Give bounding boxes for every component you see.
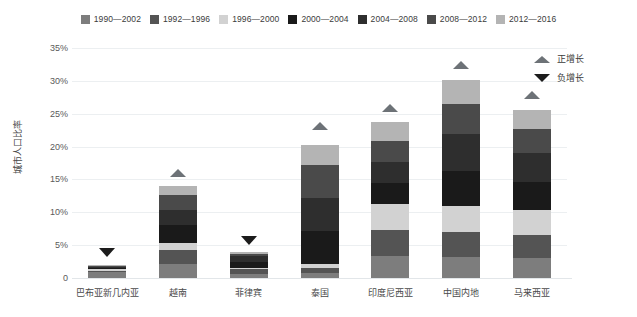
- stacked-bar[interactable]: [513, 110, 551, 278]
- bar-segment[interactable]: [513, 235, 551, 259]
- bar-segment[interactable]: [301, 145, 339, 165]
- plot-area: [72, 48, 567, 278]
- stacked-bar[interactable]: [301, 145, 339, 278]
- bar-segment[interactable]: [513, 210, 551, 235]
- bar-group[interactable]: [442, 48, 480, 278]
- bar-segment[interactable]: [159, 210, 197, 226]
- legend-item-label: 2000—2004: [301, 14, 348, 24]
- legend-item[interactable]: 1992—1996: [150, 14, 210, 24]
- bar-segment[interactable]: [513, 153, 551, 182]
- triangle-up-icon: [534, 54, 550, 64]
- growth-marker-legend: 正增长 负增长: [534, 52, 584, 84]
- chart-root: 1990—20021992—19961996—20002000—20042004…: [0, 0, 637, 317]
- bar-segment[interactable]: [159, 225, 197, 242]
- bar-segment[interactable]: [371, 230, 409, 256]
- legend-swatch-icon: [358, 15, 367, 24]
- bar-segment[interactable]: [442, 232, 480, 257]
- y-axis-tick-label: 0: [28, 273, 68, 283]
- legend-item-label: 2012—2016: [509, 14, 556, 24]
- bar-segment[interactable]: [442, 104, 480, 134]
- legend-swatch-icon: [81, 15, 90, 24]
- bar-group[interactable]: [371, 48, 409, 278]
- legend-item-label: 1990—2002: [94, 14, 141, 24]
- bar-group[interactable]: [88, 48, 126, 278]
- bar-segment[interactable]: [371, 256, 409, 278]
- legend-swatch-icon: [496, 15, 505, 24]
- bar-segment[interactable]: [371, 204, 409, 230]
- legend-swatch-icon: [150, 15, 159, 24]
- bar-segment[interactable]: [159, 243, 197, 251]
- bar-segment[interactable]: [371, 162, 409, 184]
- legend-item-label: 2004—2008: [371, 14, 418, 24]
- bar-segment[interactable]: [301, 165, 339, 198]
- x-axis-tick-label: 马来西亚: [477, 286, 587, 299]
- triangle-down-icon: [534, 73, 550, 83]
- y-axis-tick-label: 35%: [28, 43, 68, 53]
- y-axis-tick-label: 20%: [28, 142, 68, 152]
- y-axis-tick-label: 30%: [28, 76, 68, 86]
- bar-group[interactable]: [230, 48, 268, 278]
- legend-row-positive-growth: 正增长: [534, 52, 584, 65]
- negative-growth-marker-icon: [241, 236, 257, 245]
- positive-growth-marker-icon: [312, 122, 328, 130]
- bar-segment[interactable]: [442, 134, 480, 171]
- y-axis-ticks: 05%10%15%20%25%30%35%: [22, 48, 68, 279]
- legend-label-positive-growth: 正增长: [557, 52, 584, 65]
- bar-segment[interactable]: [159, 250, 197, 263]
- legend-swatch-icon: [219, 15, 228, 24]
- negative-growth-marker-icon: [99, 248, 115, 257]
- bar-segment[interactable]: [371, 141, 409, 162]
- bar-segment[interactable]: [442, 80, 480, 104]
- positive-growth-marker-icon: [170, 169, 186, 177]
- legend-item-label: 1996—2000: [232, 14, 279, 24]
- stacked-bar[interactable]: [159, 186, 197, 278]
- legend-item[interactable]: 2000—2004: [288, 14, 348, 24]
- y-axis-tick-label: 10%: [28, 207, 68, 217]
- positive-growth-marker-icon: [524, 91, 540, 99]
- bar-segment[interactable]: [301, 198, 339, 232]
- stacked-bar[interactable]: [230, 252, 268, 278]
- bar-segment[interactable]: [371, 122, 409, 140]
- y-axis-tick-label: 5%: [28, 240, 68, 250]
- bar-segment[interactable]: [513, 258, 551, 278]
- bar-segment[interactable]: [442, 171, 480, 206]
- bar-segment[interactable]: [159, 264, 197, 278]
- legend-item[interactable]: 1990—2002: [81, 14, 141, 24]
- y-axis-tick-label: 15%: [28, 174, 68, 184]
- stacked-bar[interactable]: [442, 80, 480, 278]
- stacked-bar[interactable]: [371, 122, 409, 278]
- legend-item-label: 1992—1996: [163, 14, 210, 24]
- legend-item-label: 2008—2012: [440, 14, 487, 24]
- bar-segment[interactable]: [442, 257, 480, 278]
- positive-growth-marker-icon: [382, 104, 398, 112]
- legend-label-negative-growth: 负增长: [557, 71, 584, 84]
- series-legend: 1990—20021992—19961996—20002000—20042004…: [0, 14, 637, 24]
- bar-segment[interactable]: [513, 129, 551, 153]
- bar-group[interactable]: [159, 48, 197, 278]
- legend-item[interactable]: 2004—2008: [358, 14, 418, 24]
- bar-segment[interactable]: [301, 231, 339, 264]
- legend-swatch-icon: [288, 15, 297, 24]
- bar-segment[interactable]: [442, 206, 480, 232]
- legend-item[interactable]: 2012—2016: [496, 14, 556, 24]
- bar-segment[interactable]: [371, 183, 409, 203]
- bar-segment[interactable]: [159, 186, 197, 195]
- positive-growth-marker-icon: [453, 61, 469, 69]
- stacked-bar[interactable]: [88, 265, 126, 279]
- y-axis-tick-label: 25%: [28, 109, 68, 119]
- legend-item[interactable]: 2008—2012: [427, 14, 487, 24]
- bar-segment[interactable]: [159, 195, 197, 210]
- legend-swatch-icon: [427, 15, 436, 24]
- x-axis-baseline: [72, 278, 572, 279]
- bar-segment[interactable]: [513, 182, 551, 210]
- legend-row-negative-growth: 负增长: [534, 71, 584, 84]
- bar-segment[interactable]: [513, 110, 551, 129]
- legend-item[interactable]: 1996—2000: [219, 14, 279, 24]
- bar-group[interactable]: [301, 48, 339, 278]
